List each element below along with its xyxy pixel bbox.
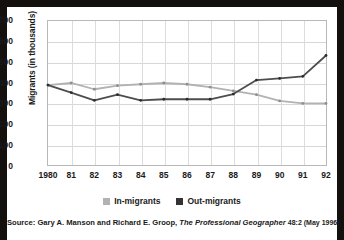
data-point xyxy=(301,102,304,105)
data-point xyxy=(325,102,328,105)
x-tick-label: 90 xyxy=(275,170,284,180)
y-tick-label: 0 xyxy=(0,161,13,171)
y-tick-label: 400 xyxy=(0,78,13,88)
x-tick-label: 86 xyxy=(182,170,191,180)
data-point xyxy=(209,86,212,89)
source-note: Source: Gary A. Manson and Richard E. Gr… xyxy=(7,218,337,227)
x-tick-label: 88 xyxy=(229,170,238,180)
data-point xyxy=(209,98,212,101)
legend-label: In-migrants xyxy=(114,196,160,206)
data-point xyxy=(232,90,235,93)
data-point xyxy=(232,93,235,96)
data-point xyxy=(47,84,50,87)
x-tick-label: 89 xyxy=(252,170,261,180)
source-prefix: Source: Gary A. Manson and Richard E. Gr… xyxy=(7,218,177,227)
x-tick-label: 87 xyxy=(205,170,214,180)
x-tick-label: 85 xyxy=(159,170,168,180)
x-tick-label: 81 xyxy=(66,170,75,180)
data-point xyxy=(162,82,165,85)
legend-item[interactable]: Out-migrants xyxy=(176,196,240,206)
chart-legend: In-migrantsOut-migrants xyxy=(7,196,337,206)
legend-label: Out-migrants xyxy=(187,196,240,206)
line-chart: Migrants (in thousands) 7006005004003002… xyxy=(7,7,337,240)
y-tick-label: 300 xyxy=(0,98,13,108)
x-tick-label: 84 xyxy=(136,170,145,180)
data-point xyxy=(278,77,281,80)
data-point xyxy=(70,82,73,85)
data-point xyxy=(139,83,142,86)
data-point xyxy=(93,99,96,102)
series-lines xyxy=(47,20,327,166)
y-tick-label: 500 xyxy=(0,57,13,67)
data-point xyxy=(278,100,281,103)
x-tick-label: 92 xyxy=(321,170,330,180)
page-top-edge xyxy=(0,0,344,7)
legend-swatch-icon xyxy=(103,198,110,205)
source-journal: The Professional Geographer xyxy=(179,218,285,227)
legend-swatch-icon xyxy=(176,198,183,205)
data-point xyxy=(93,88,96,91)
y-tick-label: 100 xyxy=(0,140,13,150)
data-point xyxy=(325,54,328,57)
data-point xyxy=(186,98,189,101)
data-point xyxy=(301,75,304,78)
data-point xyxy=(139,99,142,102)
data-point xyxy=(255,79,258,82)
x-tick-label: 1980 xyxy=(39,170,58,180)
data-point xyxy=(116,84,119,87)
series-line-out-migrants xyxy=(48,55,326,100)
x-tick-label: 91 xyxy=(298,170,307,180)
x-tick-label: 83 xyxy=(113,170,122,180)
data-point xyxy=(162,98,165,101)
source-suffix: 48:2 (May 1996) xyxy=(288,219,340,226)
data-point xyxy=(70,91,73,94)
y-tick-label: 700 xyxy=(0,15,13,25)
x-tick-label: 82 xyxy=(90,170,99,180)
y-axis-label: Migrants (in thousands) xyxy=(27,8,37,108)
y-tick-label: 600 xyxy=(0,36,13,46)
legend-item[interactable]: In-migrants xyxy=(103,196,160,206)
figure-page: Migrants (in thousands) 7006005004003002… xyxy=(0,0,344,240)
page-right-edge xyxy=(337,0,344,240)
data-point xyxy=(255,93,258,96)
data-point xyxy=(116,93,119,96)
data-point xyxy=(186,83,189,86)
y-tick-label: 200 xyxy=(0,119,13,129)
